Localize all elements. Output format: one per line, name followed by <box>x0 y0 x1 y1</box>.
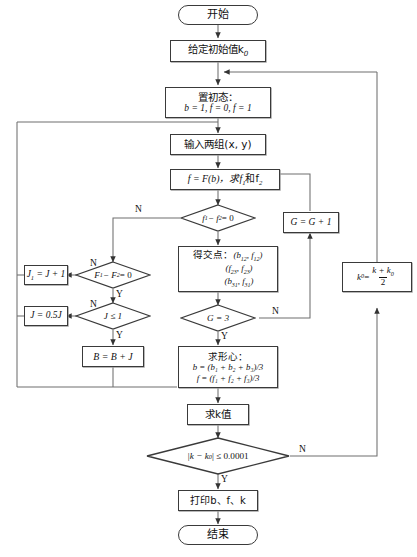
node-g-increment: G = G + 1 <box>283 212 339 233</box>
edge-label-converge-no: N <box>299 444 306 454</box>
node-init-state-title: 置初态： <box>198 91 238 103</box>
node-centroid: 求形心： b = (b₁ + b₂ + b₃)/3 f = (f₁ + f₂ +… <box>178 346 278 388</box>
flowchart-canvas: 开始 给定初始值k0 置初态： b = 1, f = 0, f = 1 输入两组… <box>0 0 417 557</box>
node-decision-F-difference: F1 − F2 = 0 <box>75 261 151 289</box>
node-input-pairs-label: 输入两组(x, y) <box>184 138 251 150</box>
edge-label-F-diff-no: N <box>90 258 97 268</box>
node-decision-converge: |k − k0| ≤ 0.0001 <box>146 437 290 475</box>
node-j-half: J = 0.5J <box>24 306 68 326</box>
node-start: 开始 <box>178 5 258 25</box>
node-init-state: 置初态： b = 1, f = 0, f = 1 <box>165 87 271 118</box>
node-print: 打印b、f、k <box>178 490 258 511</box>
node-b-plus-j: B = B + J <box>82 346 144 367</box>
node-print-label: 打印b、f、k <box>190 495 246 507</box>
node-decision-j-le-1: J ≤ 1 <box>75 302 151 330</box>
node-k0-update: k0 = k + k0 2 <box>342 262 412 292</box>
node-decision-f-difference: f1 − f2 = 0 <box>180 204 256 232</box>
node-centroid-line-f: f = (f₁ + f₂ + f₃)/3 <box>197 373 260 383</box>
node-j-increment: J1 = J + 1 <box>24 265 68 285</box>
node-centroid-title: 求形心： <box>208 351 248 362</box>
node-b-plus-j-label: B = B + J <box>93 351 132 363</box>
node-centroid-line-b: b = (b₁ + b₂ + b₃)/3 <box>193 362 263 372</box>
node-calc-k-label: 求k值 <box>205 408 231 420</box>
node-calc-f-label: f = F(b)，求f1和f2 <box>188 173 262 187</box>
node-start-label: 开始 <box>207 9 229 22</box>
node-intersections-row2: (f23, f23) <box>225 263 252 276</box>
edge-label-j-le-1-yes: Y <box>116 330 123 340</box>
k0-update-fraction: k + k0 2 <box>370 266 396 288</box>
node-j-increment-label: J1 = J + 1 <box>27 269 66 282</box>
node-intersections-row3: (b31, f31) <box>224 276 253 289</box>
node-init-k0: 给定初始值k0 <box>170 40 266 62</box>
node-init-state-vars: b = 1, f = 0, f = 1 <box>184 103 251 114</box>
edge-label-g3-no: N <box>272 306 279 316</box>
node-init-k0-label: 给定初始值k <box>188 43 244 55</box>
node-end-label: 结束 <box>207 529 229 542</box>
node-k0-update-label: k0 = k + k0 2 <box>357 266 397 288</box>
edge-label-converge-yes: Y <box>221 474 228 484</box>
node-g-increment-label: G = G + 1 <box>291 217 332 228</box>
node-decision-j-le-1-label: J ≤ 1 <box>75 302 151 330</box>
edge-label-g3-yes: Y <box>221 331 228 341</box>
edge-label-f-diff-no: N <box>135 204 142 214</box>
node-init-k0-sub: 0 <box>244 49 249 58</box>
node-j-half-label: J = 0.5J <box>30 310 61 321</box>
edge-label-F-diff-yes: Y <box>116 289 123 299</box>
node-decision-g3: G = 3 <box>180 304 256 332</box>
edge-label-j-le-1-no: N <box>90 299 97 309</box>
node-end: 结束 <box>178 525 258 545</box>
node-calc-k: 求k值 <box>187 404 249 425</box>
node-decision-g3-label: G = 3 <box>180 304 256 332</box>
node-input-pairs: 输入两组(x, y) <box>170 134 266 155</box>
node-intersections-row1: 得交点：(b12, f12) <box>193 249 262 263</box>
node-calc-f: f = F(b)，求f1和f2 <box>170 169 280 190</box>
node-intersections: 得交点：(b12, f12) (f23, f23) (b31, f31) <box>178 246 278 292</box>
